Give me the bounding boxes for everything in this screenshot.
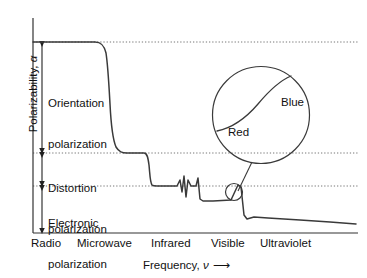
y-axis-label-text: Polarizability, [27, 62, 39, 132]
x-axis-arrow-icon: ⟶ [213, 259, 230, 271]
x-tick-radio: Radio [31, 237, 61, 249]
x-tick-ultraviolet: Ultraviolet [260, 237, 311, 249]
x-axis-label-text: Frequency, [143, 259, 203, 271]
x-tick-visible: Visible [211, 237, 245, 249]
x-axis-symbol: ν [203, 259, 209, 271]
region-label-electronic: Electronic polarization [48, 190, 107, 278]
magnifier-circle [213, 67, 310, 164]
x-axis-label: Frequency, ν⟶ [143, 258, 230, 272]
x-tick-microwave: Microwave [77, 237, 132, 249]
y-axis-symbol: α [27, 56, 39, 63]
region-orientation-line1: Orientation [48, 97, 107, 111]
inset-label-blue: Blue [281, 96, 304, 108]
region-orientation-line2: polarization [48, 138, 107, 152]
magnified-curve [217, 76, 291, 131]
figure-container: Polarizability, α Orientation polarizati… [0, 0, 367, 278]
region-electronic-line2: polarization [48, 258, 107, 272]
y-axis-label: Polarizability, α [27, 34, 39, 154]
inset-label-red: Red [228, 126, 249, 138]
region-electronic-line1: Electronic [48, 217, 107, 231]
x-tick-infrared: Infrared [151, 237, 191, 249]
